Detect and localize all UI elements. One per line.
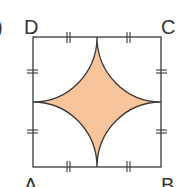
- square-diagram: ) D C A B: [0, 0, 180, 187]
- vertex-label-c: C: [161, 16, 175, 38]
- part-label: ): [0, 16, 3, 38]
- vertex-label-b: B: [161, 174, 174, 187]
- vertex-label-d: D: [24, 16, 38, 38]
- shaded-region: [33, 37, 161, 167]
- vertex-label-a: A: [24, 174, 38, 187]
